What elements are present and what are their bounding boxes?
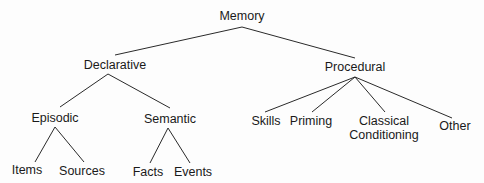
- edge-procedural-classical: [355, 77, 385, 112]
- edge-semantic-facts: [150, 128, 168, 163]
- edge-procedural-skills: [265, 77, 355, 112]
- edge-memory-procedural: [242, 27, 355, 58]
- node-classical-conditioning: Classical Conditioning: [349, 114, 419, 142]
- edge-episodic-items: [35, 127, 55, 162]
- node-events: Events: [174, 165, 212, 179]
- node-memory: Memory: [219, 9, 264, 23]
- node-other: Other: [439, 119, 470, 133]
- edge-procedural-priming: [312, 77, 355, 112]
- node-facts: Facts: [133, 165, 164, 179]
- node-items: Items: [12, 163, 43, 177]
- node-episodic: Episodic: [31, 111, 78, 125]
- edge-declarative-semantic: [108, 74, 170, 108]
- edge-procedural-other: [355, 77, 452, 118]
- node-sources: Sources: [59, 164, 105, 178]
- edge-memory-declarative: [115, 27, 242, 55]
- node-priming: Priming: [290, 114, 332, 128]
- node-classical-line1: Classical: [349, 114, 419, 128]
- node-declarative: Declarative: [84, 58, 147, 72]
- node-skills: Skills: [251, 114, 280, 128]
- edge-episodic-sources: [55, 127, 84, 162]
- edge-semantic-events: [168, 128, 190, 163]
- tree-edges: [0, 0, 484, 183]
- node-procedural: Procedural: [325, 60, 385, 74]
- memory-taxonomy-diagram: Memory Declarative Procedural Episodic S…: [0, 0, 484, 183]
- node-semantic: Semantic: [144, 112, 196, 126]
- node-classical-line2: Conditioning: [349, 128, 419, 142]
- edge-declarative-episodic: [60, 74, 108, 107]
